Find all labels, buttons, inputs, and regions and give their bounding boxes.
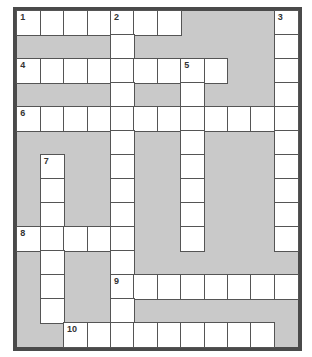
crossword-cell[interactable]: 4: [16, 58, 41, 84]
crossword-cell[interactable]: [110, 178, 135, 204]
crossword-cell[interactable]: [157, 322, 182, 348]
crossword-cell[interactable]: [87, 322, 112, 348]
crossword-cell[interactable]: [40, 202, 65, 228]
crossword-cell[interactable]: 6: [16, 106, 41, 132]
clue-number: 6: [20, 108, 25, 118]
crossword-cell[interactable]: [40, 274, 65, 300]
crossword-cell[interactable]: [157, 58, 182, 84]
crossword-frame: 12345678910: [13, 7, 302, 351]
crossword-cell[interactable]: [227, 106, 252, 132]
crossword-cell[interactable]: [180, 202, 205, 228]
crossword-cell[interactable]: [227, 274, 252, 300]
crossword-cell[interactable]: [133, 10, 158, 36]
crossword-cell[interactable]: [40, 250, 65, 276]
crossword-cell[interactable]: 9: [110, 274, 135, 300]
crossword-cell[interactable]: [157, 274, 182, 300]
crossword-cell[interactable]: [274, 178, 299, 204]
clue-number: 10: [67, 324, 77, 334]
crossword-cell[interactable]: [110, 58, 135, 84]
crossword-cell[interactable]: [110, 250, 135, 276]
crossword-cell[interactable]: [87, 58, 112, 84]
crossword-cell[interactable]: [180, 130, 205, 156]
crossword-cell[interactable]: [250, 106, 275, 132]
crossword-cell[interactable]: [180, 226, 205, 252]
crossword-cell[interactable]: 2: [110, 10, 135, 36]
crossword-cell[interactable]: [133, 106, 158, 132]
crossword-cell[interactable]: [63, 58, 88, 84]
crossword-cell[interactable]: [87, 10, 112, 36]
crossword-cell[interactable]: [180, 154, 205, 180]
crossword-cell[interactable]: [180, 274, 205, 300]
crossword-cell[interactable]: [133, 58, 158, 84]
crossword-cell[interactable]: [274, 202, 299, 228]
crossword-cell[interactable]: [274, 82, 299, 108]
crossword-cell[interactable]: [227, 322, 252, 348]
crossword-cell[interactable]: [40, 298, 65, 324]
crossword-cell[interactable]: [157, 106, 182, 132]
crossword-cell[interactable]: [204, 106, 229, 132]
crossword-cell[interactable]: [274, 130, 299, 156]
crossword-cell[interactable]: [110, 202, 135, 228]
crossword-cell[interactable]: [110, 34, 135, 60]
crossword-cell[interactable]: [180, 322, 205, 348]
crossword-cell[interactable]: [133, 322, 158, 348]
crossword-cell[interactable]: [87, 106, 112, 132]
crossword-cell[interactable]: [87, 226, 112, 252]
crossword-cell[interactable]: [204, 58, 229, 84]
crossword-cell[interactable]: 5: [180, 58, 205, 84]
crossword-cell[interactable]: [110, 226, 135, 252]
crossword-cell[interactable]: [274, 274, 299, 300]
crossword-cell[interactable]: 7: [40, 154, 65, 180]
crossword-cell[interactable]: [63, 10, 88, 36]
clue-number: 1: [20, 12, 25, 22]
crossword-cell[interactable]: [110, 82, 135, 108]
crossword-cell[interactable]: [204, 322, 229, 348]
crossword-cell[interactable]: [180, 106, 205, 132]
crossword-cell[interactable]: [250, 274, 275, 300]
crossword-cell[interactable]: [110, 130, 135, 156]
crossword-cell[interactable]: [274, 106, 299, 132]
crossword-cell[interactable]: [110, 106, 135, 132]
crossword-cell[interactable]: [63, 226, 88, 252]
crossword-cell[interactable]: [180, 178, 205, 204]
clue-number: 4: [20, 60, 25, 70]
crossword-cell[interactable]: [110, 322, 135, 348]
crossword-cell[interactable]: [40, 10, 65, 36]
crossword-cell[interactable]: [274, 154, 299, 180]
clue-number: 2: [114, 12, 119, 22]
crossword-cell[interactable]: [40, 178, 65, 204]
crossword-cell[interactable]: [274, 226, 299, 252]
crossword-cell[interactable]: [40, 58, 65, 84]
clue-number: 9: [114, 276, 119, 286]
crossword-cell[interactable]: [157, 10, 182, 36]
crossword-cell[interactable]: 1: [16, 10, 41, 36]
crossword-cell[interactable]: [40, 106, 65, 132]
crossword-cell[interactable]: [204, 274, 229, 300]
crossword-cell[interactable]: 8: [16, 226, 41, 252]
clue-number: 7: [44, 156, 49, 166]
crossword-cell[interactable]: [40, 226, 65, 252]
crossword-grid: 12345678910: [17, 11, 298, 347]
crossword-cell[interactable]: [110, 298, 135, 324]
clue-number: 3: [278, 12, 283, 22]
clue-number: 8: [20, 228, 25, 238]
crossword-cell[interactable]: [63, 106, 88, 132]
crossword-cell[interactable]: [274, 34, 299, 60]
crossword-cell[interactable]: [133, 274, 158, 300]
crossword-cell[interactable]: [180, 82, 205, 108]
crossword-cell[interactable]: 3: [274, 10, 299, 36]
crossword-cell[interactable]: 10: [63, 322, 88, 348]
crossword-cell[interactable]: [274, 58, 299, 84]
crossword-cell[interactable]: [110, 154, 135, 180]
crossword-cell[interactable]: [250, 322, 275, 348]
clue-number: 5: [184, 60, 189, 70]
